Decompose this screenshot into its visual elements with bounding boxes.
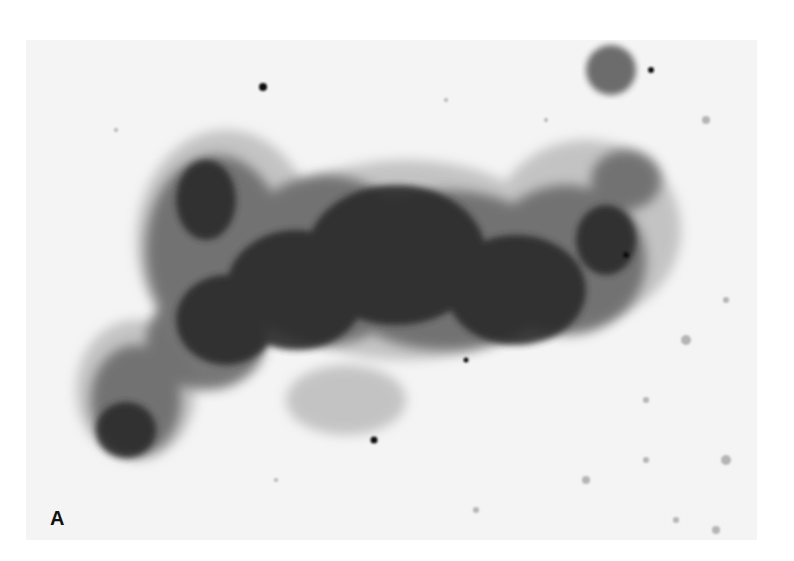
micrograph-image	[26, 40, 757, 540]
panel-label: A	[50, 507, 64, 530]
micrograph-panel: A	[26, 40, 757, 540]
